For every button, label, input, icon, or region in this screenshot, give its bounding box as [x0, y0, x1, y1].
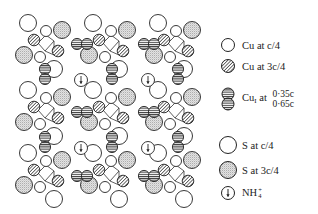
- legend-item-s-3c4: S at 3c/4: [218, 160, 279, 180]
- legend-label: S at c/4: [242, 140, 274, 151]
- hatched-circle-icon: [218, 56, 238, 76]
- legend-label: NH+4: [242, 187, 262, 200]
- circled-arrow-icon: [218, 183, 238, 203]
- open-circle-icon: [218, 35, 238, 55]
- stippled-circle-icon: [218, 160, 238, 180]
- legend: Cu at c/4 Cu at 3c/4 CuI at 0·35c0·65c S…: [218, 0, 318, 214]
- legend-item-cu-c4: Cu at c/4: [218, 35, 280, 55]
- atom-cluster: [16, 15, 201, 208]
- legend-label: CuI at 0·35c0·65c: [242, 89, 294, 109]
- legend-item-cu1: CuI at 0·35c0·65c: [218, 85, 294, 113]
- legend-label: Cu at 3c/4: [242, 61, 285, 72]
- legend-item-s-c4: S at c/4: [218, 135, 274, 155]
- legend-label: Cu at c/4: [242, 40, 280, 51]
- crystal-structure-diagram: [0, 0, 215, 214]
- legend-label: S at 3c/4: [242, 165, 279, 176]
- striped-double-circle-icon: [218, 85, 238, 113]
- large-open-circle-icon: [218, 135, 238, 155]
- legend-item-cu-3c4: Cu at 3c/4: [218, 56, 285, 76]
- legend-item-nh4: NH+4: [218, 183, 262, 203]
